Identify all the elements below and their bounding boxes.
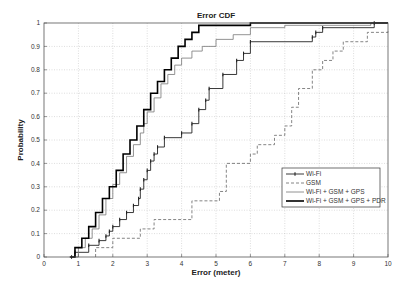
x-axis-label: Error (meter) <box>192 268 241 277</box>
y-tick-label: 0.5 <box>31 136 40 143</box>
y-tick-label: 0.7 <box>31 89 40 96</box>
y-tick-label: 0 <box>36 253 40 260</box>
y-tick-label: 0.2 <box>31 206 40 213</box>
background <box>0 0 410 287</box>
y-tick-label: 0.6 <box>31 113 40 120</box>
x-tick-label: 9 <box>352 260 356 267</box>
x-tick-label: 7 <box>283 260 287 267</box>
y-tick-label: 0.4 <box>31 160 40 167</box>
y-tick-label: 0.3 <box>31 183 40 190</box>
x-tick-label: 4 <box>180 260 184 267</box>
x-tick-label: 8 <box>317 260 321 267</box>
legend-entry-label: Wi-Fi + GSM + GPS <box>306 188 365 195</box>
x-tick-label: 3 <box>145 260 149 267</box>
x-tick-label: 6 <box>249 260 253 267</box>
x-tick-label: 5 <box>214 260 218 267</box>
x-tick-label: 2 <box>111 260 115 267</box>
legend-entry-label: GSM <box>306 179 321 186</box>
x-tick-label: 10 <box>384 260 392 267</box>
x-tick-label: 0 <box>42 260 46 267</box>
y-tick-label: 0.1 <box>31 230 40 237</box>
y-tick-label: 0.9 <box>31 43 40 50</box>
legend: Wi-FiGSMWi-Fi + GSM + GPSWi-Fi + GSM + G… <box>282 168 386 207</box>
error-cdf-chart: Error CDF 01234567891000.10.20.30.40.50.… <box>0 0 410 287</box>
legend-entry-label: Wi-Fi <box>306 170 321 177</box>
legend-entry-label: Wi-Fi + GSM + GPS + PDR <box>306 197 386 204</box>
y-tick-label: 1 <box>36 19 40 26</box>
y-axis-label: Probability <box>16 119 25 161</box>
y-tick-label: 0.8 <box>31 66 40 73</box>
x-tick-label: 1 <box>77 260 81 267</box>
chart-title: Error CDF <box>197 11 235 20</box>
